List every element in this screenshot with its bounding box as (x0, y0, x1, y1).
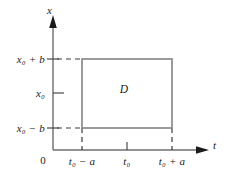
horizontal-axis-arrow (196, 146, 209, 154)
y-tick-label-bottom: x₀ − b (0, 123, 45, 134)
y-tick-label-top-text: x₀ + b (17, 53, 45, 65)
horizontal-axis (53, 146, 209, 154)
x-tick-label-right: t₀ + a (159, 156, 186, 167)
origin-label: 0 (40, 155, 46, 166)
vertical-axis (49, 15, 57, 150)
figure-canvas: x t x₀ + b x₀ x₀ − b 0 t₀ − a t₀ t₀ + a … (0, 0, 228, 177)
y-tick-label-bottom-text: x₀ − b (17, 122, 45, 134)
y-tick-marks (47, 59, 64, 128)
y-tick-label-mid: x₀ (0, 88, 45, 99)
region-label-d: D (120, 84, 129, 96)
x-tick-label-left: t₀ − a (69, 156, 96, 167)
x-tick-label-mid: t₀ (123, 156, 130, 167)
y-tick-label-mid-text: x₀ (36, 87, 45, 99)
axis-label-x: x (47, 5, 52, 16)
axis-label-t: t (213, 140, 216, 151)
y-tick-label-top: x₀ + b (0, 54, 45, 65)
vertical-axis-arrow (49, 15, 57, 28)
